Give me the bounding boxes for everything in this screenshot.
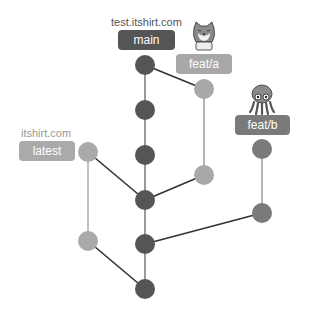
branch-label-latest[interactable]: latest — [19, 141, 75, 161]
commit-node[interactable] — [135, 190, 155, 210]
branch-label-feat-a[interactable]: feat/a — [176, 54, 232, 74]
commit-node[interactable] — [135, 279, 155, 299]
branch-label-feat-b[interactable]: feat/b — [235, 115, 290, 135]
commit-node[interactable] — [194, 165, 214, 185]
commit-node[interactable] — [78, 231, 98, 251]
commit-node[interactable] — [135, 55, 155, 75]
main-host-label: test.itshirt.com — [111, 16, 182, 28]
commit-node[interactable] — [135, 145, 155, 165]
cat-icon — [193, 22, 214, 50]
commit-node[interactable] — [252, 203, 272, 223]
commit-node[interactable] — [252, 139, 272, 159]
commit-node[interactable] — [78, 142, 98, 162]
commit-node[interactable] — [194, 79, 214, 99]
octopus-icon — [250, 85, 274, 114]
commit-node[interactable] — [135, 100, 155, 120]
latest-host-label: itshirt.com — [21, 127, 71, 139]
commit-node[interactable] — [135, 234, 155, 254]
edge-feat-b-merge — [145, 213, 262, 244]
branch-label-main[interactable]: main — [118, 30, 175, 50]
